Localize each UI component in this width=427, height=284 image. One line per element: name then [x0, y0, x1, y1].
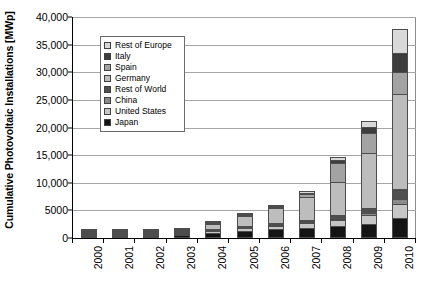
x-axis-tick-label: 2001 [123, 246, 135, 269]
x-axis-tick-label-text: 2000 [92, 246, 104, 269]
x-axis-tick-mark [228, 239, 229, 243]
bar-segment [361, 153, 377, 208]
bar-stack [268, 205, 284, 238]
legend-item: United States [104, 106, 180, 117]
y-axis-tick-mark [68, 99, 72, 100]
legend-swatch-icon [104, 108, 111, 115]
y-axis-tick-label: 30,000 [20, 66, 68, 78]
x-axis-tick-label-text: 2009 [372, 246, 384, 269]
bar-segment [392, 29, 408, 53]
x-axis-tick-mark [103, 239, 104, 243]
legend-item: Japan [104, 117, 180, 128]
y-axis-title: Cumulative Photovoltaic Installations [M… [0, 0, 18, 240]
x-axis-tick-mark [259, 239, 260, 243]
x-axis-tick-mark [290, 239, 291, 243]
legend-item: Italy [104, 51, 180, 62]
x-axis-tick-label: 2000 [92, 246, 104, 269]
legend-item: Rest of World [104, 84, 180, 95]
bar-stack [392, 29, 408, 238]
bar-stack [361, 121, 377, 238]
bar-segment [392, 72, 408, 94]
x-axis-tick-mark [166, 239, 167, 243]
bar-segment [112, 236, 128, 238]
y-axis-tick-label: 15,000 [20, 149, 68, 161]
x-axis-tick-label: 2008 [341, 246, 353, 269]
y-axis-title-text: Cumulative Photovoltaic Installations [M… [3, 11, 15, 228]
y-axis-tick-mark [68, 72, 72, 73]
y-axis-tick-mark [68, 210, 72, 211]
bar-stack [143, 230, 159, 238]
x-axis-tick-label: 2010 [403, 246, 415, 269]
x-axis-tick-label: 2004 [216, 246, 228, 269]
bar-segment [330, 163, 346, 182]
bar-stack [81, 234, 97, 238]
bar-stack [205, 221, 221, 238]
y-axis-tick-label: 20,000 [20, 122, 68, 134]
x-axis-tick-mark [134, 239, 135, 243]
x-axis-tick-label: 2002 [154, 246, 166, 269]
legend-swatch-icon [104, 86, 111, 93]
bar-stack [174, 228, 190, 238]
legend-item-label: United States [115, 106, 166, 117]
bar-segment [237, 231, 253, 238]
y-axis-tick-label: 25,000 [20, 94, 68, 106]
bar-segment [361, 224, 377, 239]
y-axis-tick-label: 0 [20, 232, 68, 244]
y-axis-tick-label: 10,000 [20, 177, 68, 189]
legend-item-label: Spain [115, 62, 137, 73]
bar-stack [112, 232, 128, 238]
gridline [73, 17, 416, 18]
bar-segment [174, 235, 190, 238]
x-axis-tick-label: 2005 [248, 246, 260, 269]
y-axis-tick-label: 5000 [20, 204, 68, 216]
legend-swatch-icon [104, 97, 111, 104]
legend-item-label: China [115, 95, 137, 106]
legend-item-label: Rest of World [115, 84, 166, 95]
bar-segment [268, 229, 284, 238]
bar-stack [330, 157, 346, 238]
bar-segment [392, 53, 408, 72]
legend-item: Spain [104, 62, 180, 73]
legend-item: Germany [104, 73, 180, 84]
bar-segment [330, 182, 346, 216]
x-axis-tick-mark [415, 239, 416, 243]
legend-item-label: Italy [115, 51, 131, 62]
bar-segment [330, 226, 346, 238]
x-axis-tick-label-text: 2003 [185, 246, 197, 269]
bar-segment [392, 218, 408, 238]
bar-segment [237, 216, 253, 226]
bar-stack [299, 191, 315, 238]
bar-segment [361, 133, 377, 152]
x-axis-tick-label-text: 2002 [154, 246, 166, 269]
x-axis-tick-label: 2003 [185, 246, 197, 269]
bar-segment [205, 233, 221, 238]
x-axis-tick-label-text: 2005 [248, 246, 260, 269]
legend-swatch-icon [104, 64, 111, 71]
y-axis-tick-mark [68, 155, 72, 156]
legend-swatch-icon [104, 75, 111, 82]
x-axis-tick-label: 2006 [279, 246, 291, 269]
legend-item: Rest of Europe [104, 40, 180, 51]
x-axis-tick-label-text: 2008 [341, 246, 353, 269]
bar-segment [143, 236, 159, 238]
x-axis-tick-label: 2007 [310, 246, 322, 269]
y-axis-tick-labels: 0500010,00015,00020,00025,00030,00035,00… [18, 0, 68, 284]
chart-figure: Cumulative Photovoltaic Installations [M… [0, 0, 427, 284]
legend-item-label: Germany [115, 73, 150, 84]
x-axis-tick-mark [384, 239, 385, 243]
bar-segment [299, 228, 315, 238]
x-axis-tick-mark [197, 239, 198, 243]
legend-item: China [104, 95, 180, 106]
x-axis-tick-mark [321, 239, 322, 243]
y-axis-tick-mark [68, 17, 72, 18]
x-axis-tick-label-text: 2001 [123, 246, 135, 269]
bar-segment [299, 197, 315, 220]
x-axis-tick-label-text: 2004 [216, 246, 228, 269]
x-axis-tick-label-text: 2007 [310, 246, 322, 269]
y-axis-tick-mark [68, 127, 72, 128]
chart-legend: Rest of EuropeItalySpainGermanyRest of W… [100, 36, 185, 132]
y-axis-tick-label: 40,000 [20, 11, 68, 23]
x-axis-tick-mark [72, 239, 73, 243]
bar-segment [81, 236, 97, 238]
legend-item-label: Japan [115, 117, 138, 128]
